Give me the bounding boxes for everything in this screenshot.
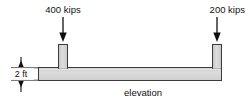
figure-container: 400 kips 200 kips	[0, 0, 248, 107]
right-load-arrow-head	[213, 33, 220, 43]
left-load-arrow-head	[59, 33, 66, 43]
beam-depth-dimension: 2 ft	[9, 57, 38, 92]
right-load-label: 200 kips	[210, 4, 246, 15]
depth-lower-arrow-head	[18, 81, 23, 87]
left-load-label: 400 kips	[45, 4, 81, 15]
depth-upper-arrow-head	[18, 61, 23, 67]
beam-depth-label: 2 ft	[15, 69, 28, 79]
left-load-group: 400 kips	[45, 4, 81, 42]
figure-caption: elevation	[124, 87, 162, 98]
right-vertical-stub	[213, 45, 222, 69]
elevation-diagram: 400 kips 200 kips	[0, 0, 248, 107]
left-vertical-stub	[59, 45, 68, 69]
structure-group	[39, 45, 222, 81]
right-load-group: 200 kips	[210, 4, 246, 42]
